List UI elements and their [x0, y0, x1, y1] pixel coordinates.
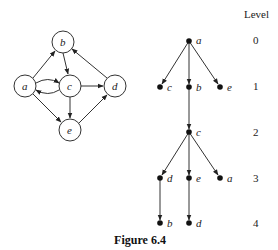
- node-label-a: a: [22, 80, 28, 92]
- level-4: 4: [253, 217, 259, 229]
- node-label-c: c: [67, 80, 72, 92]
- level-3: 3: [253, 172, 259, 184]
- tree-node: [157, 84, 163, 90]
- tree-label: a: [227, 172, 233, 184]
- node-label-e: e: [67, 124, 72, 136]
- level-0: 0: [253, 34, 259, 46]
- tree-label: e: [227, 81, 232, 93]
- tree-label: d: [167, 172, 173, 184]
- tree-edge: [162, 132, 189, 175]
- edge-d-b: [72, 49, 107, 78]
- tree-label: b: [196, 81, 202, 93]
- figure: b a c d e a c b e c d e a b: [0, 0, 278, 250]
- edge-a-e: [33, 94, 61, 122]
- tree-edge: [189, 41, 218, 84]
- level-column: Level 0 1 2 3 4: [244, 8, 269, 229]
- edge-b-c: [63, 53, 68, 74]
- edge-c-a: [36, 90, 59, 94]
- tree-label: b: [167, 217, 173, 229]
- tree-nodes: [157, 38, 223, 226]
- tree-labels: a c b e c d e a b d: [167, 34, 233, 229]
- node-label-d: d: [112, 80, 118, 92]
- figure-canvas: b a c d e a c b e c d e a b: [0, 0, 278, 250]
- tree-node: [217, 84, 223, 90]
- level-header: Level: [244, 8, 269, 20]
- tree-node: [217, 175, 223, 181]
- tree-label: d: [196, 217, 202, 229]
- tree-label: c: [196, 126, 201, 138]
- tree-edge: [189, 132, 218, 175]
- tree-node: [157, 175, 163, 181]
- edge-a-b: [33, 51, 55, 78]
- tree-node: [186, 129, 192, 135]
- node-label-b: b: [60, 36, 66, 48]
- tree-node: [186, 175, 192, 181]
- edge-a-c: [36, 80, 59, 84]
- tree-edge: [162, 41, 189, 84]
- tree-node: [186, 220, 192, 226]
- figure-caption: Figure 6.4: [114, 233, 166, 247]
- tree-label: a: [196, 34, 202, 46]
- tree-label: e: [196, 172, 201, 184]
- level-2: 2: [253, 126, 259, 138]
- tree-node: [186, 84, 192, 90]
- tree-label: c: [167, 81, 172, 93]
- tree-node: [157, 220, 163, 226]
- level-1: 1: [253, 80, 259, 92]
- edge-e-d: [79, 95, 107, 123]
- tree-node: [186, 38, 192, 44]
